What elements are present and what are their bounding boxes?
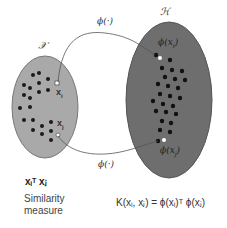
point-xj-sub: j [62,124,64,130]
input-space-ellipse [12,56,78,158]
mapping-top-label: ϕ(·) [97,17,113,26]
point-xi-label: xi [56,88,63,99]
point-xj-label: xj [57,119,64,130]
phi-xi-label: ϕ(xi) [158,38,178,49]
phi-xi-marker [158,56,162,60]
similarity-caption-line1: Similarity [24,193,65,205]
kernel-equation: K(xᵢ, xⱼ) = ϕ(xᵢ)ᵀ ϕ(xⱼ) [116,198,205,208]
phi-xj-label: ϕ(xj) [160,146,180,157]
phi-xj-text: ϕ(x [160,145,175,155]
phi-xi-text: ϕ(x [158,37,173,47]
feature-space-label: ℋ [160,7,170,17]
phi-xj-marker [162,138,166,142]
input-space-label: 𝒳 [38,41,47,51]
phi-xi-close: ) [175,37,179,47]
similarity-caption-line2: measure [24,205,63,217]
point-xi-sub: i [61,93,63,99]
phi-xj-close: ) [177,145,181,155]
dot-product-label: xᵢᵀ xⱼ [25,177,47,187]
mapping-bottom-label: ϕ(·) [98,160,114,169]
